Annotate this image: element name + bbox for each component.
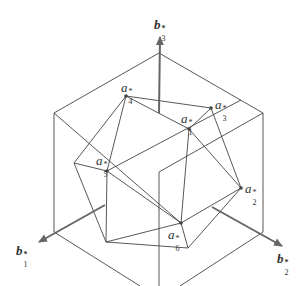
label-b3: b*3 [154,18,161,31]
label-a6: a*6 [168,228,175,241]
label-b1: b*1 [16,244,23,257]
label-a3: a*3 [215,98,222,111]
icosahedron-reciprocal-lattice-diagram: b*3 b*1 b*2 a*4 a*3 a*1 a*5 a*2 a*6 [0,0,303,286]
label-b2: b*2 [277,252,284,265]
label-a1: a*1 [181,112,188,125]
axis-b1-arrow [39,205,105,242]
label-a4: a*4 [121,81,128,94]
label-a2: a*2 [245,182,252,195]
label-a5: a*5 [96,154,103,167]
polyhedron-edges [74,96,241,248]
axes [39,37,282,246]
axis-b3-arrow [159,37,160,113]
axis-b2-arrow [212,207,282,246]
diagram-svg [0,0,303,286]
